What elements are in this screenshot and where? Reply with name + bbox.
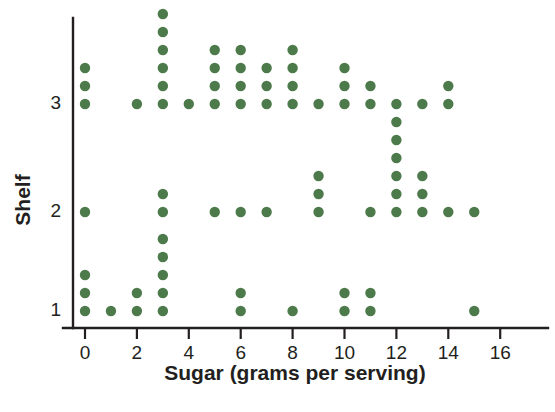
data-dot	[210, 45, 220, 55]
data-dot	[391, 171, 401, 181]
x-axis-ticks: 0246810121416	[80, 328, 511, 363]
data-dot	[132, 288, 142, 298]
data-dot	[236, 63, 246, 73]
data-dot	[236, 99, 246, 109]
data-dot	[236, 306, 246, 316]
plot-canvas: 0246810121416 123 Sugar (grams per servi…	[0, 0, 555, 412]
x-tick-label: 16	[490, 342, 511, 363]
data-dot	[339, 99, 349, 109]
x-tick-label: 14	[438, 342, 460, 363]
data-dot	[313, 189, 323, 199]
data-dot	[80, 270, 90, 280]
data-dot	[210, 81, 220, 91]
data-dot	[210, 207, 220, 217]
data-dot	[287, 63, 297, 73]
data-dot	[365, 306, 375, 316]
data-dot	[339, 306, 349, 316]
data-dot	[80, 81, 90, 91]
series-shelf-3	[80, 9, 454, 109]
data-dot	[391, 207, 401, 217]
data-dot	[132, 99, 142, 109]
data-dot	[443, 81, 453, 91]
data-dot	[158, 207, 168, 217]
x-tick-label: 0	[80, 342, 91, 363]
data-dot	[158, 99, 168, 109]
data-dot	[391, 117, 401, 127]
data-dot	[132, 306, 142, 316]
data-dot	[417, 171, 427, 181]
y-tick-label: 2	[50, 200, 61, 221]
x-tick-label: 12	[386, 342, 407, 363]
data-dot	[417, 189, 427, 199]
data-dot	[106, 306, 116, 316]
data-dot	[313, 99, 323, 109]
x-axis-title: Sugar (grams per serving)	[164, 361, 425, 384]
data-dot	[158, 9, 168, 19]
data-dot	[391, 99, 401, 109]
x-tick-label: 4	[184, 342, 195, 363]
data-dot	[339, 288, 349, 298]
data-dot	[236, 45, 246, 55]
data-dot	[313, 207, 323, 217]
data-dot	[236, 288, 246, 298]
y-axis-ticks: 123	[50, 92, 61, 320]
data-dot	[236, 81, 246, 91]
data-dot	[443, 207, 453, 217]
data-dot	[158, 234, 168, 244]
data-dot	[158, 189, 168, 199]
data-dot	[158, 288, 168, 298]
data-dot	[261, 99, 271, 109]
data-dot	[158, 27, 168, 37]
data-dot	[158, 81, 168, 91]
data-dot	[80, 207, 90, 217]
data-dot	[391, 153, 401, 163]
dot-plot-figure: 0246810121416 123 Sugar (grams per servi…	[0, 0, 555, 412]
data-dot	[313, 171, 323, 181]
x-tick-label: 8	[287, 342, 298, 363]
data-dot	[417, 207, 427, 217]
series-shelf-1	[80, 234, 480, 316]
x-tick-label: 2	[132, 342, 143, 363]
data-points-layer	[80, 9, 480, 316]
data-dot	[339, 81, 349, 91]
data-dot	[287, 45, 297, 55]
data-dot	[261, 63, 271, 73]
data-dot	[158, 63, 168, 73]
data-dot	[365, 99, 375, 109]
data-dot	[365, 81, 375, 91]
y-axis-title: Shelf	[11, 173, 34, 225]
y-tick-label: 1	[50, 299, 61, 320]
data-dot	[210, 99, 220, 109]
data-dot	[80, 63, 90, 73]
data-dot	[365, 207, 375, 217]
data-dot	[80, 288, 90, 298]
data-dot	[261, 81, 271, 91]
data-dot	[391, 189, 401, 199]
x-tick-label: 10	[334, 342, 355, 363]
data-dot	[158, 270, 168, 280]
data-dot	[158, 306, 168, 316]
data-dot	[287, 81, 297, 91]
data-dot	[287, 306, 297, 316]
data-dot	[469, 306, 479, 316]
data-dot	[210, 63, 220, 73]
data-dot	[287, 99, 297, 109]
data-dot	[158, 252, 168, 262]
data-dot	[469, 207, 479, 217]
data-dot	[80, 99, 90, 109]
data-dot	[236, 207, 246, 217]
data-dot	[158, 45, 168, 55]
data-dot	[80, 306, 90, 316]
y-tick-label: 3	[50, 92, 61, 113]
data-dot	[184, 99, 194, 109]
data-dot	[417, 99, 427, 109]
data-dot	[443, 99, 453, 109]
data-dot	[339, 63, 349, 73]
data-dot	[365, 288, 375, 298]
data-dot	[261, 207, 271, 217]
series-shelf-2	[80, 117, 480, 217]
axes-group	[63, 18, 548, 328]
data-dot	[391, 135, 401, 145]
x-tick-label: 6	[235, 342, 246, 363]
